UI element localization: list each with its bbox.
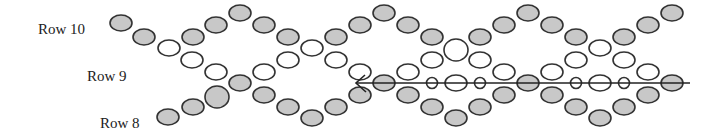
shaded-bead bbox=[349, 17, 371, 33]
shaded-bead bbox=[661, 5, 683, 21]
shaded-bead bbox=[157, 109, 179, 125]
shaded-bead bbox=[205, 86, 229, 108]
shaded-bead bbox=[541, 17, 563, 33]
shaded-bead bbox=[637, 17, 659, 33]
bead-pattern-graphic bbox=[0, 0, 718, 137]
shaded-bead bbox=[517, 5, 539, 21]
shaded-bead bbox=[373, 5, 395, 21]
shaded-bead bbox=[565, 29, 587, 45]
white-bead bbox=[158, 40, 180, 56]
white-bead bbox=[253, 64, 275, 80]
shaded-bead bbox=[541, 87, 563, 103]
white-bead bbox=[277, 52, 299, 68]
shaded-bead bbox=[301, 110, 323, 126]
white-bead bbox=[349, 64, 371, 80]
shaded-bead bbox=[205, 17, 227, 33]
white-bead bbox=[589, 40, 611, 56]
shaded-bead bbox=[277, 29, 299, 45]
white-bead bbox=[493, 64, 515, 80]
shaded-bead bbox=[253, 17, 275, 33]
shaded-bead bbox=[493, 87, 515, 103]
shaded-bead bbox=[325, 99, 347, 115]
shaded-bead bbox=[110, 15, 132, 31]
shaded-bead bbox=[613, 99, 635, 115]
white-bead bbox=[469, 52, 491, 68]
shaded-bead bbox=[637, 87, 659, 103]
white-bead bbox=[301, 40, 323, 56]
white-bead bbox=[444, 39, 468, 61]
shaded-bead bbox=[397, 17, 419, 33]
shaded-bead bbox=[421, 29, 443, 45]
shaded-bead bbox=[469, 99, 491, 115]
shaded-bead bbox=[589, 110, 611, 126]
white-bead bbox=[421, 52, 443, 68]
shaded-bead bbox=[397, 87, 419, 103]
white-bead bbox=[397, 64, 419, 80]
white-bead bbox=[565, 52, 587, 68]
bead-row-diagram: Row 10 Row 9 Row 8 bbox=[0, 0, 718, 137]
shaded-bead bbox=[613, 29, 635, 45]
white-bead bbox=[541, 64, 563, 80]
shaded-bead bbox=[133, 29, 155, 45]
shaded-bead bbox=[565, 99, 587, 115]
shaded-bead bbox=[182, 99, 204, 115]
white-bead bbox=[325, 52, 347, 68]
beads-group bbox=[110, 5, 683, 126]
shaded-bead bbox=[421, 99, 443, 115]
shaded-bead bbox=[253, 87, 275, 103]
shaded-bead bbox=[325, 29, 347, 45]
shaded-bead bbox=[445, 110, 467, 126]
white-bead bbox=[637, 64, 659, 80]
white-bead bbox=[205, 64, 227, 80]
white-bead bbox=[181, 52, 203, 68]
shaded-bead bbox=[229, 5, 251, 21]
shaded-bead bbox=[349, 87, 371, 103]
shaded-bead bbox=[493, 17, 515, 33]
white-bead bbox=[613, 52, 635, 68]
shaded-bead bbox=[182, 29, 204, 45]
shaded-bead bbox=[277, 99, 299, 115]
shaded-bead bbox=[469, 29, 491, 45]
shaded-bead bbox=[229, 75, 251, 91]
